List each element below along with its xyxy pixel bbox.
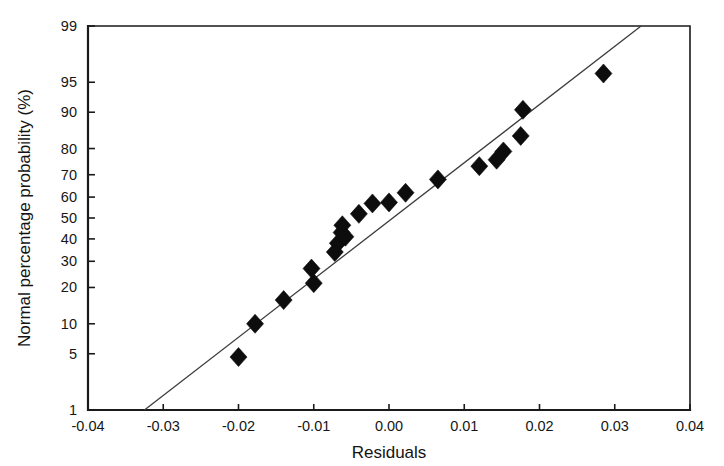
data-point-marker xyxy=(230,348,247,367)
x-tick-label: -0.02 xyxy=(222,418,255,434)
y-tick-label: 20 xyxy=(61,279,77,295)
x-axis-title: Residuals xyxy=(352,443,427,462)
y-tick-label: 95 xyxy=(61,74,77,90)
y-tick-label: 60 xyxy=(61,189,77,205)
data-point-marker xyxy=(595,64,612,83)
data-point-marker xyxy=(247,314,264,333)
x-tick-label: -0.01 xyxy=(297,418,330,434)
normal-probability-plot-figure: -0.04-0.03-0.02-0.010.000.010.020.030.04… xyxy=(0,0,724,466)
y-tick-label: 80 xyxy=(61,141,77,157)
x-tick-label: -0.03 xyxy=(147,418,180,434)
x-tick-label: 0.03 xyxy=(601,418,629,434)
data-point-marker xyxy=(364,194,381,213)
data-point-marker xyxy=(514,100,531,119)
y-axis-tick-labels: 151020304050607080909599 xyxy=(61,18,77,418)
y-tick-label: 90 xyxy=(61,104,77,120)
data-point-marker xyxy=(305,274,322,293)
x-tick-label: -0.04 xyxy=(71,418,104,434)
y-tick-label: 30 xyxy=(61,253,77,269)
y-tick-label: 10 xyxy=(61,316,77,332)
data-point-marker xyxy=(429,170,446,189)
x-tick-label: 0.00 xyxy=(375,418,403,434)
y-tick-label: 5 xyxy=(69,346,77,362)
y-tick-label: 50 xyxy=(61,210,77,226)
y-axis-title: Normal percentage probability (%) xyxy=(15,89,34,347)
y-tick-label: 40 xyxy=(61,231,77,247)
data-point-marker xyxy=(512,126,529,145)
data-point-marker xyxy=(471,157,488,176)
plot-frame xyxy=(88,26,690,410)
data-point-marker xyxy=(303,259,320,278)
x-axis-tick-labels: -0.04-0.03-0.02-0.010.000.010.020.030.04 xyxy=(71,418,704,434)
normal-reference-line xyxy=(144,26,641,410)
y-tick-label: 1 xyxy=(69,402,77,418)
x-tick-label: 0.04 xyxy=(676,418,704,434)
plot-canvas: -0.04-0.03-0.02-0.010.000.010.020.030.04… xyxy=(0,0,724,466)
data-point-marker xyxy=(381,193,398,212)
data-point-markers xyxy=(230,64,612,367)
y-tick-label: 99 xyxy=(61,18,77,34)
y-tick-label: 70 xyxy=(61,167,77,183)
data-point-marker xyxy=(350,204,367,223)
x-tick-label: 0.02 xyxy=(525,418,553,434)
x-tick-label: 0.01 xyxy=(450,418,478,434)
data-point-marker xyxy=(397,183,414,202)
